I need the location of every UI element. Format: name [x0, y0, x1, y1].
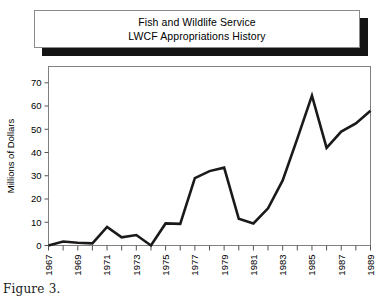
- x-tick-label: 1985: [306, 255, 317, 276]
- y-axis: 010203040506070: [31, 77, 49, 251]
- chart-title-line-1: Fish and Wildlife Service: [138, 15, 255, 29]
- plot-frame: [49, 67, 371, 246]
- y-axis-title: Millions of Dollars: [5, 119, 16, 194]
- y-tick-label: 30: [31, 170, 42, 181]
- y-tick-label: 0: [36, 240, 41, 251]
- x-tick-label: 1983: [277, 255, 288, 276]
- title-banner: Fish and Wildlife Service LWCF Appropria…: [34, 10, 360, 48]
- figure-caption: Figure 3.: [3, 282, 60, 296]
- chart-title-line-2: LWCF Appropriations History: [128, 29, 265, 43]
- chart-container: 010203040506070 196719691971197319751977…: [0, 58, 388, 276]
- y-tick-label: 20: [31, 193, 42, 204]
- x-tick-label: 1977: [189, 255, 200, 276]
- line-chart: 010203040506070 196719691971197319751977…: [0, 58, 388, 276]
- x-tick-label: 1967: [43, 255, 54, 276]
- x-tick-label: 1979: [219, 255, 230, 276]
- y-tick-label: 50: [31, 124, 42, 135]
- x-axis: 1967196919711973197519771979198119831985…: [43, 246, 376, 276]
- x-tick-label: 1971: [101, 255, 112, 276]
- x-tick-label: 1989: [365, 255, 376, 276]
- x-tick-label: 1973: [131, 255, 142, 276]
- y-tick-label: 40: [31, 147, 42, 158]
- y-tick-label: 10: [31, 217, 42, 228]
- title-banner-box: Fish and Wildlife Service LWCF Appropria…: [34, 10, 360, 48]
- x-tick-label: 1969: [72, 255, 83, 276]
- y-tick-label: 70: [31, 77, 42, 88]
- x-tick-label: 1987: [336, 255, 347, 276]
- x-tick-label: 1981: [248, 255, 259, 276]
- x-tick-label: 1975: [160, 255, 171, 276]
- y-tick-label: 60: [31, 100, 42, 111]
